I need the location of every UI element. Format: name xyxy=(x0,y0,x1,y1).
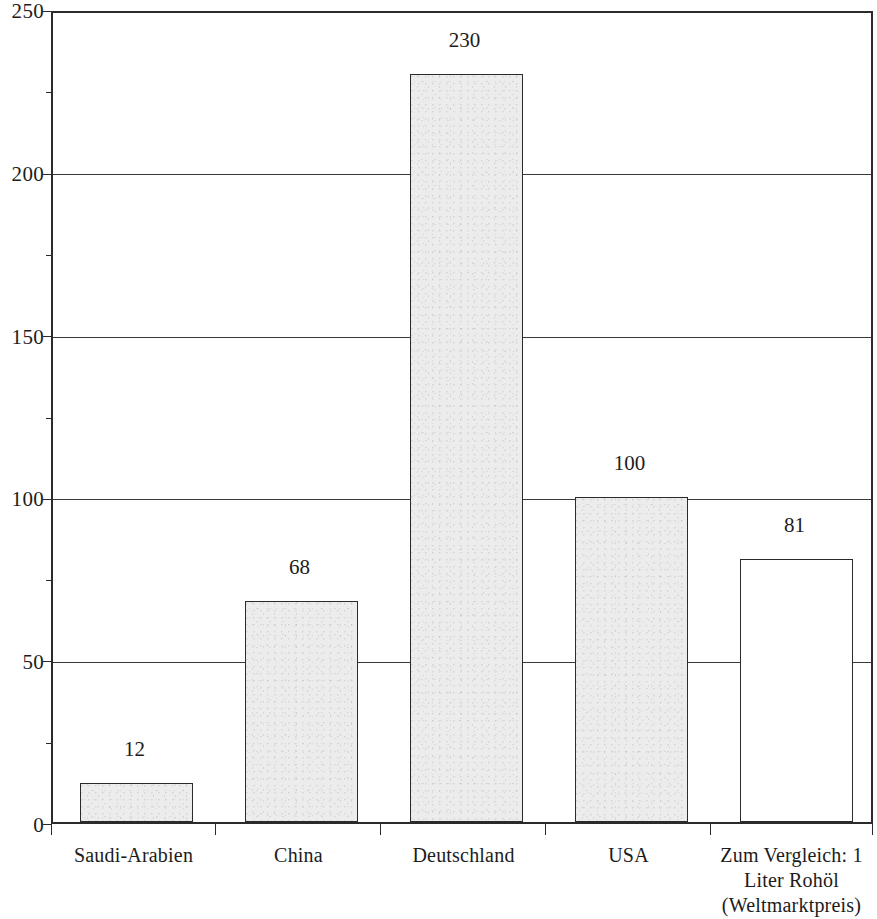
x-axis-tick-4 xyxy=(710,824,711,835)
x-axis-tick-2 xyxy=(380,824,381,835)
y-axis-label-150: 150 xyxy=(0,327,44,348)
x-axis-label-zum-vergleich: Zum Vergleich: 1 Liter Rohöl (Weltmarktp… xyxy=(706,843,877,918)
value-label-saudi-arabien: 12 xyxy=(78,739,191,760)
x-axis-tick-5 xyxy=(872,824,873,835)
value-label-deutschland: 230 xyxy=(408,30,521,51)
x-axis-tick-0 xyxy=(51,824,52,835)
y-axis-label-250: 250 xyxy=(0,1,44,22)
x-axis-label-saudi-arabien: Saudi-Arabien xyxy=(51,843,216,868)
x-axis-tick-3 xyxy=(545,824,546,835)
bar-saudi-arabien xyxy=(80,783,193,822)
y-axis-label-0: 0 xyxy=(0,815,44,836)
y-axis-label-50: 50 xyxy=(0,652,44,673)
bar-chart: 250 200 150 100 50 0 12 68 230 100 81 Sa… xyxy=(0,0,877,919)
bar-china xyxy=(245,601,358,822)
x-axis-label-usa: USA xyxy=(546,843,711,868)
x-axis-tick-1 xyxy=(215,824,216,835)
value-label-china: 68 xyxy=(243,557,356,578)
bar-deutschland xyxy=(410,74,523,822)
y-axis-label-100: 100 xyxy=(0,489,44,510)
value-label-usa: 100 xyxy=(573,453,686,474)
bar-zum-vergleich xyxy=(740,559,853,822)
y-axis-label-200: 200 xyxy=(0,164,44,185)
value-label-zum-vergleich: 81 xyxy=(738,515,851,536)
bar-usa xyxy=(575,497,688,822)
x-axis-label-china: China xyxy=(216,843,381,868)
x-axis-label-deutschland: Deutschland xyxy=(381,843,546,868)
plot-area xyxy=(51,11,873,824)
